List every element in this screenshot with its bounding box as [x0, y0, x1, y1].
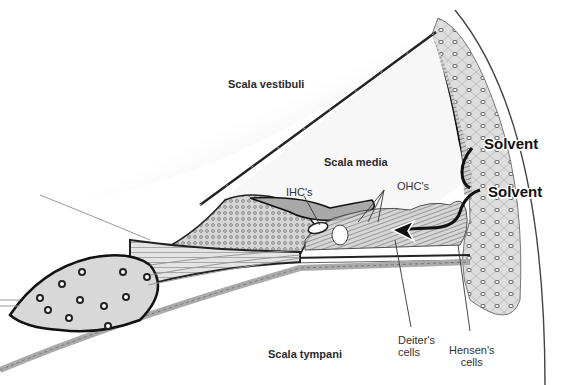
label-ohc: OHC's — [397, 180, 429, 192]
deiters-line-1: Deiter's — [398, 334, 435, 346]
label-ihc: IHC's — [286, 186, 313, 198]
label-scala-tympani: Scala tympani — [268, 348, 342, 360]
label-solvent-bottom: Solvent — [488, 184, 542, 201]
label-scala-vestibuli: Scala vestibuli — [228, 78, 304, 90]
label-solvent-top: Solvent — [484, 136, 538, 153]
label-hensens-cells: Hensen's cells — [449, 344, 495, 368]
tunnel-of-corti — [332, 225, 348, 245]
hensens-line-1: Hensen's — [449, 344, 495, 356]
label-deiters-cells: Deiter's cells — [398, 334, 435, 358]
cochlea-diagram: Scala vestibuli Scala media Scala tympan… — [0, 0, 571, 385]
spiral-ganglion — [10, 255, 158, 331]
hensens-line-2: cells — [449, 356, 495, 368]
basilar-membrane — [290, 255, 470, 258]
bony-shelf-top — [40, 195, 150, 240]
label-scala-media: Scala media — [324, 156, 388, 168]
deiters-line-2: cells — [398, 346, 435, 358]
